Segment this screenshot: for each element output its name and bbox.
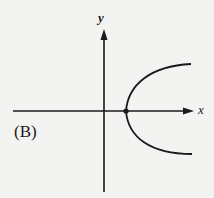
option-label: (B) [14, 122, 37, 142]
graph-canvas [0, 0, 214, 198]
y-axis-arrow-icon [101, 29, 108, 40]
y-axis-label: y [98, 10, 104, 26]
x-axis-arrow-icon [183, 108, 194, 115]
x-axis-label: x [198, 102, 204, 118]
vertex-point [123, 108, 128, 113]
parabola-curve [126, 64, 192, 154]
